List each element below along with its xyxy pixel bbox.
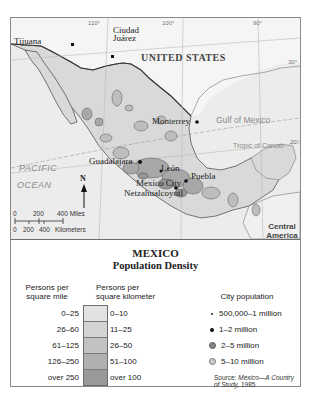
- city-label-puebla: Puebla: [191, 171, 216, 181]
- swatch-over-250: [84, 370, 107, 385]
- density-mile-2: 61–125: [21, 341, 79, 350]
- header-persons-per-mile: Persons per square mile: [15, 283, 79, 301]
- city-label-guadalajara: Guadalajara: [89, 156, 132, 166]
- ring-circle-icon: [209, 358, 216, 365]
- density-mile-3: 126–250: [21, 357, 79, 366]
- scale-km-0: 0: [13, 226, 17, 233]
- city-label-tijuana: Tijuana: [14, 36, 41, 46]
- density-mile-0: 0–25: [21, 309, 79, 318]
- map-area: 110° 100° 90° 30° 20° UNITED STATES Gulf…: [11, 18, 300, 240]
- swatch-26-60: [84, 322, 107, 338]
- longitude-110-label: 110°: [88, 20, 100, 26]
- density-km-3: 51–100: [110, 357, 137, 366]
- source-citation: Source: Mexico—A Country of Study, 1985: [214, 374, 294, 388]
- map-figure: 110° 100° 90° 30° 20° UNITED STATES Gulf…: [10, 17, 301, 387]
- city-pop-row-1: 500,000–1 million: [209, 309, 282, 318]
- density-km-1: 11–25: [110, 325, 132, 334]
- city-pop-row-3: 2–5 million: [209, 341, 259, 350]
- scale-miles-0: 0: [13, 210, 17, 217]
- swatch-126-250: [84, 354, 107, 370]
- north-arrow-label: N: [80, 174, 86, 183]
- density-km-2: 26–50: [110, 341, 132, 350]
- density-km-4: over 100: [110, 373, 141, 382]
- city-label-leon: León: [161, 163, 180, 173]
- density-mile-4: over 250: [21, 373, 79, 382]
- city-pop-row-4: 5–10 million: [209, 357, 264, 366]
- city-label-monterrey: Monterrey: [152, 116, 190, 126]
- density-swatches: [83, 305, 108, 386]
- city-label-netzahualcoyotl: Netzahualcoyotl: [124, 188, 183, 198]
- scale-km-unit: Kilometers: [55, 226, 86, 233]
- scale-miles-200: 200: [33, 210, 44, 217]
- density-km-0: 0–10: [110, 309, 128, 318]
- united-states-label: UNITED STATES: [141, 52, 226, 63]
- small-dot-icon: [211, 313, 213, 315]
- pacific-label: PACIFIC: [19, 163, 57, 173]
- longitude-100-label: 100°: [162, 20, 174, 26]
- ocean-label: OCEAN: [17, 180, 52, 190]
- map-title: MEXICO: [11, 247, 300, 259]
- latitude-30-label: 30°: [288, 59, 297, 65]
- gulf-of-mexico-label: Gulf of Mexico: [216, 115, 270, 125]
- swatch-0-25: [84, 306, 107, 322]
- dot-icon: [210, 328, 214, 332]
- header-persons-per-km: Persons per square kilometer: [96, 283, 168, 301]
- swatch-61-125: [84, 338, 107, 354]
- latitude-20-label: 20°: [290, 139, 299, 145]
- scale-km-200: 200: [23, 226, 34, 233]
- scale-km-400: 400: [39, 226, 50, 233]
- central-america-label: Central America: [265, 222, 299, 240]
- city-label-mexico-city: Mexico City: [136, 178, 181, 188]
- density-mile-1: 26–60: [21, 325, 79, 334]
- gray-circle-icon: [209, 342, 216, 349]
- tropic-of-cancer-label: Tropic of Cancer: [233, 142, 284, 149]
- scale-miles-400: 400 Miles: [57, 210, 85, 217]
- city-pop-row-2: 1–2 million: [209, 325, 257, 334]
- city-label-ciudad-juarez: Ciudad Juárez: [113, 26, 139, 42]
- header-city-population: City population: [207, 292, 287, 301]
- legend: MEXICO Population Density Persons per sq…: [11, 240, 300, 386]
- longitude-90-label: 90°: [253, 20, 262, 26]
- map-subtitle: Population Density: [11, 260, 300, 271]
